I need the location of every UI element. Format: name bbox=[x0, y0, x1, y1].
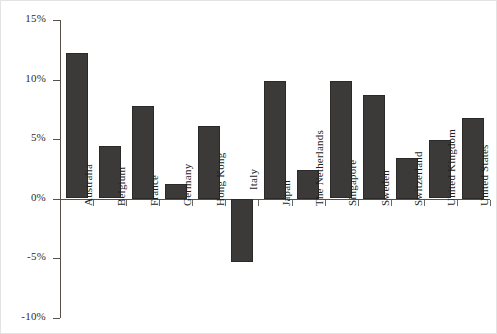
x-axis-category-label: Australia bbox=[82, 164, 94, 206]
y-axis-tick-label: 15% bbox=[2, 12, 46, 24]
x-axis-category-label: Singapore bbox=[346, 160, 358, 206]
y-axis-tick-label: -10% bbox=[2, 310, 46, 322]
y-axis-tick-mark bbox=[53, 318, 60, 319]
x-axis-category-label: Belgium bbox=[115, 167, 127, 206]
x-axis-category-label: United States bbox=[478, 144, 490, 206]
bar bbox=[231, 199, 253, 262]
x-axis-tick-mark bbox=[490, 200, 491, 206]
x-axis-category-label: United Kingdom bbox=[445, 129, 457, 206]
x-axis-category-label: Italy bbox=[247, 169, 259, 190]
x-axis-category-label: Sweden bbox=[379, 170, 391, 206]
x-axis-tick-mark bbox=[325, 200, 326, 206]
x-axis-tick-mark bbox=[457, 200, 458, 206]
bar-chart-figure: 15%10%5%0%-5%-10%AustraliaBelgiumFranceG… bbox=[0, 0, 497, 334]
y-axis-tick-label: 5% bbox=[2, 131, 46, 143]
y-axis-tick-mark bbox=[53, 80, 60, 81]
x-axis-category-label: France bbox=[148, 175, 160, 206]
x-axis-category-label: Germany bbox=[181, 164, 193, 206]
y-axis-line bbox=[60, 20, 61, 318]
x-axis-category-label: Hong Kong bbox=[214, 153, 226, 206]
y-axis-tick-label: 0% bbox=[2, 191, 46, 203]
y-axis-tick-mark bbox=[53, 199, 60, 200]
y-axis-tick-label: -5% bbox=[2, 250, 46, 262]
x-axis-category-label: Switzerland bbox=[412, 151, 424, 206]
x-axis-category-label: Japan bbox=[280, 180, 292, 206]
plot-area: 15%10%5%0%-5%-10%AustraliaBelgiumFranceG… bbox=[0, 0, 497, 334]
x-axis-tick-mark bbox=[358, 200, 359, 206]
x-axis-category-label: The Netherlands bbox=[313, 130, 325, 206]
x-axis-tick-mark bbox=[258, 200, 259, 206]
x-axis-tick-mark bbox=[424, 200, 425, 206]
y-axis-tick-label: 10% bbox=[2, 72, 46, 84]
x-axis-tick-mark bbox=[391, 200, 392, 206]
y-axis-tick-mark bbox=[53, 20, 60, 21]
y-axis-tick-mark bbox=[53, 139, 60, 140]
x-axis-tick-mark bbox=[292, 200, 293, 206]
y-axis-tick-mark bbox=[53, 258, 60, 259]
